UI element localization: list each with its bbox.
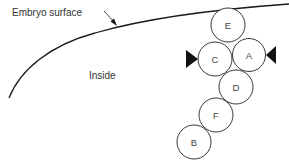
cell-label: F: [213, 110, 219, 121]
embryo-cell-diagram: Embryo surface Inside E A C D F B: [0, 0, 289, 163]
cell-label: D: [233, 82, 240, 93]
cell-D: D: [219, 70, 253, 104]
cell-label: C: [212, 54, 219, 65]
cell-label: B: [191, 137, 197, 148]
cell-label: A: [246, 50, 253, 61]
cell-B: B: [177, 125, 211, 159]
triangle-right-pointing-icon: [186, 50, 198, 68]
embryo-surface-label: Embryo surface: [12, 7, 82, 18]
cell-C: C: [198, 42, 232, 76]
triangle-left-pointing-icon: [266, 46, 276, 64]
cell-label: E: [225, 20, 231, 31]
inside-label: Inside: [89, 70, 116, 81]
cell-F: F: [199, 98, 233, 132]
cell-E: E: [211, 8, 245, 42]
cell-A: A: [233, 39, 266, 72]
